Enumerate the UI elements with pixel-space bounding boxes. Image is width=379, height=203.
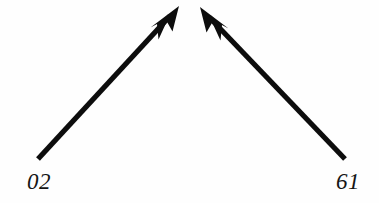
right-arrow <box>200 7 345 159</box>
diagram-canvas: 02 61 <box>0 0 379 203</box>
left-arrow <box>38 6 179 159</box>
right-arrow-label: 61 <box>336 170 360 193</box>
left-arrow-label: 02 <box>27 170 51 193</box>
right-arrow-shaft <box>209 17 345 159</box>
arrows-diagram <box>0 0 379 203</box>
left-arrow-shaft <box>38 16 170 159</box>
